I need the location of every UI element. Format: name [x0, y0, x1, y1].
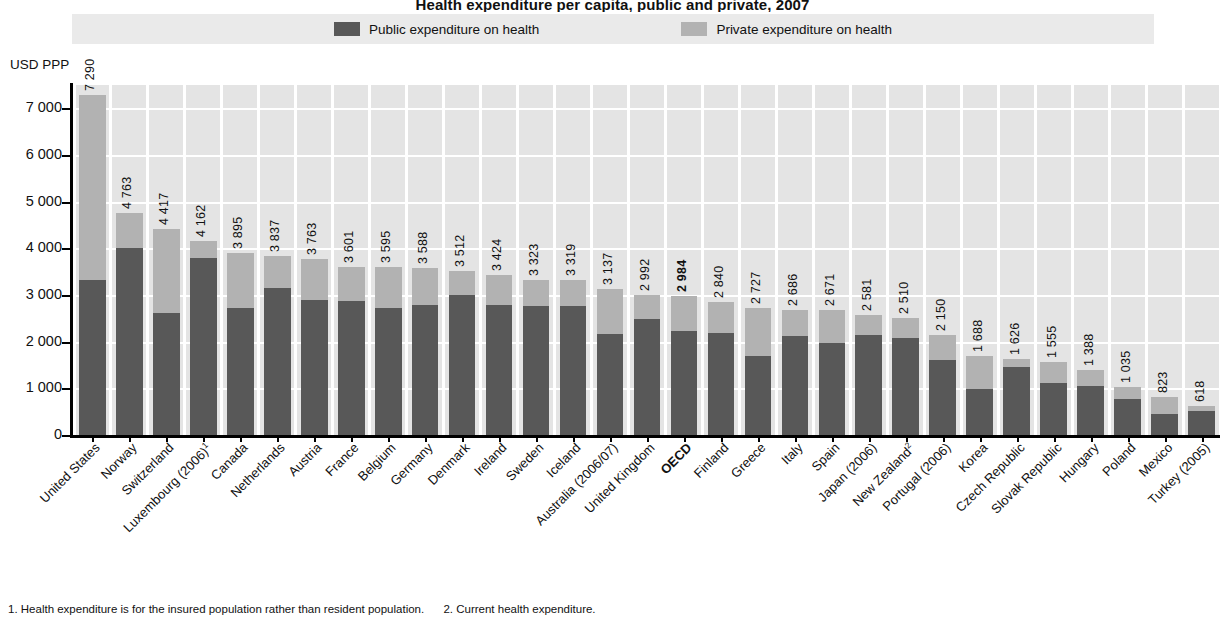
bar-value-label: 7 290 — [83, 59, 97, 91]
y-axis-tick — [62, 342, 71, 344]
footnote-2: 2. Current health expenditure. — [443, 603, 595, 615]
bar-value-label: 3 137 — [601, 252, 615, 284]
bar-stacked[interactable]: 2 992 — [634, 295, 661, 435]
bar-segment-private — [708, 302, 735, 333]
bar-stacked[interactable]: 1 035 — [1114, 387, 1141, 435]
bar-value-label: 1 626 — [1008, 323, 1022, 355]
y-axis-tick-label: 6 000 — [0, 146, 62, 162]
gridline-vertical — [257, 85, 260, 435]
legend-label-public: Public expenditure on health — [369, 22, 539, 37]
bar-value-label: 3 323 — [527, 244, 541, 276]
gridline-vertical — [183, 85, 186, 435]
bar-segment-private — [1151, 397, 1178, 414]
bar-stacked[interactable]: 2 150 — [929, 335, 956, 435]
bar-segment-public — [855, 335, 882, 435]
bar-stacked[interactable]: 1 626 — [1003, 359, 1030, 435]
bar-stacked[interactable]: 3 588 — [412, 268, 439, 435]
gridline-vertical — [1145, 85, 1148, 435]
bar-value-label: 3 601 — [342, 231, 356, 263]
y-axis-tick — [62, 295, 71, 297]
legend-item-public: Public expenditure on health — [334, 22, 539, 37]
bar-stacked[interactable]: 3 137 — [597, 289, 624, 435]
bar-stacked[interactable]: 3 837 — [264, 256, 291, 435]
gridline-vertical — [1034, 85, 1037, 435]
bar-stacked[interactable]: 1 688 — [966, 356, 993, 435]
bar-stacked[interactable]: 4 162 — [190, 241, 217, 435]
y-axis-line — [70, 83, 73, 437]
bar-segment-public — [153, 313, 180, 435]
bar-segment-public — [634, 319, 661, 435]
bar-segment-public — [819, 343, 846, 435]
bar-segment-public — [671, 331, 698, 435]
gridline-horizontal — [74, 108, 1220, 110]
bar-segment-public — [523, 306, 550, 435]
bar-stacked[interactable]: 3 512 — [449, 271, 476, 435]
bar-stacked[interactable]: 2 686 — [782, 310, 809, 435]
gridline-horizontal — [74, 155, 1220, 157]
bar-stacked[interactable]: 7 290 — [79, 95, 106, 435]
bar-segment-private — [1114, 387, 1141, 399]
gridline-vertical — [1182, 85, 1185, 435]
bar-stacked[interactable]: 4 763 — [116, 213, 143, 435]
bar-value-label: 3 588 — [416, 231, 430, 263]
bar-stacked[interactable]: 3 424 — [486, 275, 513, 435]
bar-segment-public — [929, 360, 956, 435]
y-axis-tick — [62, 248, 71, 250]
bar-segment-private — [1077, 370, 1104, 385]
x-axis-line — [70, 435, 1220, 438]
bar-stacked[interactable]: 4 417 — [153, 229, 180, 435]
gridline-vertical — [590, 85, 593, 435]
bar-stacked[interactable]: 2 510 — [892, 318, 919, 435]
bar-stacked[interactable]: 3 595 — [375, 267, 402, 435]
bar-value-label: 2 840 — [712, 266, 726, 298]
bar-stacked[interactable]: 1 388 — [1077, 370, 1104, 435]
bar-value-label: 3 595 — [379, 231, 393, 263]
gridline-vertical — [1108, 85, 1111, 435]
y-axis-tick-label: 5 000 — [0, 193, 62, 209]
bar-segment-public — [264, 288, 291, 435]
gridline-vertical — [997, 85, 1000, 435]
gridline-vertical — [886, 85, 889, 435]
bar-segment-public — [708, 333, 735, 435]
bar-stacked[interactable]: 3 601 — [338, 267, 365, 435]
bar-value-label: 618 — [1193, 381, 1207, 402]
bar-segment-private — [116, 213, 143, 248]
bar-stacked[interactable]: 2 840 — [708, 302, 735, 435]
bar-segment-public — [1188, 411, 1215, 435]
bar-segment-public — [301, 300, 328, 435]
bar-value-label: 2 984 — [675, 259, 689, 291]
y-axis-tick-label: 3 000 — [0, 286, 62, 302]
bar-stacked[interactable]: 3 323 — [523, 280, 550, 435]
bar-segment-private — [523, 280, 550, 306]
bar-segment-private — [486, 275, 513, 305]
bar-segment-private — [1003, 359, 1030, 367]
bar-segment-private — [745, 308, 772, 356]
bar-stacked[interactable]: 3 895 — [227, 253, 254, 435]
bar-stacked[interactable]: 2 984 — [671, 296, 698, 435]
bar-segment-private — [264, 256, 291, 288]
y-axis-tick — [62, 155, 71, 157]
bar-stacked[interactable]: 618 — [1188, 406, 1215, 435]
bar-stacked[interactable]: 823 — [1151, 397, 1178, 435]
bar-segment-public — [597, 334, 624, 435]
bar-segment-private — [227, 253, 254, 308]
bar-value-label: 3 319 — [564, 244, 578, 276]
bar-stacked[interactable]: 2 671 — [819, 310, 846, 435]
y-axis-tick-label: 7 000 — [0, 99, 62, 115]
bar-segment-public — [190, 258, 217, 435]
bar-segment-private — [782, 310, 809, 336]
bar-value-label: 3 512 — [453, 235, 467, 267]
bar-stacked[interactable]: 2 581 — [855, 315, 882, 435]
bar-stacked[interactable]: 2 727 — [745, 308, 772, 435]
bar-segment-private — [819, 310, 846, 342]
bar-value-label: 4 763 — [120, 176, 134, 208]
bar-stacked[interactable]: 3 319 — [560, 280, 587, 435]
bar-value-label: 1 035 — [1119, 350, 1133, 382]
bar-value-label: 3 763 — [305, 223, 319, 255]
bar-segment-private — [449, 271, 476, 294]
bar-value-label: 823 — [1156, 371, 1170, 392]
gridline-vertical — [1219, 85, 1222, 435]
bar-stacked[interactable]: 3 763 — [301, 259, 328, 435]
bar-stacked[interactable]: 1 555 — [1040, 362, 1067, 435]
bar-segment-private — [190, 241, 217, 258]
